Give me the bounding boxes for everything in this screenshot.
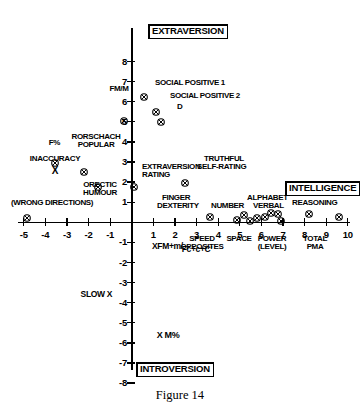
annotation-reasoning: REASONING xyxy=(292,199,337,207)
y-tick-label: -3 xyxy=(119,278,127,287)
annotation-xfm-numerator: XFM+m/ xyxy=(152,241,183,251)
y-tick-mark xyxy=(127,161,135,162)
x-tick-mark xyxy=(110,218,111,226)
y-tick-mark xyxy=(127,242,135,243)
annotation-pma: PMA xyxy=(298,243,332,251)
y-tick-label: -4 xyxy=(119,298,127,307)
y-tick-label: 6 xyxy=(122,97,127,106)
annotation-inaccuracy-x-marker: X xyxy=(22,167,88,175)
data-point-marker xyxy=(181,179,189,187)
annotation-level: (LEVEL) xyxy=(252,243,292,251)
annotation-xfm-ratio: XFM+m/Fc+c+C' xyxy=(144,234,213,259)
annotation-popular: POPULAR xyxy=(67,141,125,149)
annotation-social-positive-2: SOCIAL POSITIVE 2 xyxy=(170,92,240,100)
y-tick-mark xyxy=(127,81,135,82)
x-tick-mark xyxy=(88,218,89,226)
figure-caption: Figure 14 xyxy=(0,388,360,403)
data-point-marker xyxy=(305,210,313,218)
y-tick-mark xyxy=(127,101,135,102)
x-tick-label: -5 xyxy=(14,230,34,239)
y-tick-mark xyxy=(127,202,135,203)
y-tick-label: 1 xyxy=(122,197,127,206)
y-tick-mark xyxy=(127,362,135,363)
y-tick-mark xyxy=(127,302,135,303)
y-tick-label: -7 xyxy=(119,358,127,367)
y-tick-mark xyxy=(127,61,135,62)
y-tick-mark xyxy=(127,382,135,383)
data-point-marker xyxy=(157,118,165,126)
annotation-inaccuracy: INACCURACY xyxy=(22,155,88,163)
data-point-marker xyxy=(140,93,148,101)
y-tick-label: -2 xyxy=(119,258,127,267)
extraversion-pole-label: EXTRAVERSION xyxy=(152,26,224,36)
x-tick-label: -3 xyxy=(57,230,77,239)
data-point-marker xyxy=(23,214,31,222)
annotation-self-rating: SELF-RATING xyxy=(197,163,246,171)
y-axis-line xyxy=(131,28,133,370)
x-tick-mark xyxy=(174,218,175,226)
x-tick-mark xyxy=(304,218,305,226)
annotation-social-positive-1: SOCIAL POSITIVE 1 xyxy=(155,79,225,87)
x-axis-line xyxy=(18,222,350,224)
extraversion-pole-box: EXTRAVERSION xyxy=(148,24,228,39)
x-tick-label: 10 xyxy=(338,230,358,239)
annotation-humour: HUMOUR xyxy=(75,189,125,197)
x-tick-mark xyxy=(347,218,348,226)
y-tick-label: -6 xyxy=(119,338,127,347)
figure-14-scatter-plot: -8-7-6-5-4-3-2-112345678-5-4-3-2-1123456… xyxy=(0,0,360,416)
x-tick-mark xyxy=(153,218,154,226)
annotation-x-m-percent: X M% xyxy=(138,331,198,339)
y-tick-label: 3 xyxy=(122,157,127,166)
introversion-pole-label: INTROVERSION xyxy=(140,364,210,374)
x-tick-label: -2 xyxy=(79,230,99,239)
y-tick-mark xyxy=(127,342,135,343)
x-tick-label: -4 xyxy=(35,230,55,239)
x-tick-mark xyxy=(196,218,197,226)
y-tick-mark xyxy=(127,282,135,283)
annotation-dexterity: DEXTERITY xyxy=(157,202,199,210)
x-tick-mark xyxy=(66,218,67,226)
annotation-extraversion-rating-line2: RATING xyxy=(142,171,170,179)
annotation-wrong-directions: (WRONG DIRECTIONS) xyxy=(11,199,93,207)
y-tick-label: -8 xyxy=(119,378,127,387)
data-point-marker xyxy=(120,117,128,125)
annotation-fm-m: FM/M xyxy=(100,85,138,93)
data-point-marker xyxy=(206,213,214,221)
data-point-marker xyxy=(152,108,160,116)
x-tick-mark xyxy=(326,218,327,226)
x-tick-label: -1 xyxy=(100,230,120,239)
x-tick-mark xyxy=(218,218,219,226)
annotation-d: D xyxy=(177,103,182,111)
data-point-marker xyxy=(335,213,343,221)
annotation-xfm-denominator: Fc+c+C' xyxy=(182,244,212,254)
y-tick-mark xyxy=(127,322,135,323)
annotation-verbal: VERBAL xyxy=(253,202,284,210)
y-tick-mark xyxy=(127,141,135,142)
introversion-pole-box: INTROVERSION xyxy=(136,362,214,377)
y-tick-label: -5 xyxy=(119,318,127,327)
data-point-marker xyxy=(130,183,138,191)
y-tick-mark xyxy=(127,262,135,263)
data-point-marker xyxy=(277,217,285,225)
annotation-f-percent: F% xyxy=(36,139,60,147)
intelligence-pole-label: INTELLIGENCE xyxy=(289,183,356,193)
annotation-space: SPACE xyxy=(222,235,256,243)
annotation-slow-x: SLOW X xyxy=(48,290,112,298)
x-tick-mark xyxy=(45,218,46,226)
intelligence-pole-box: INTELLIGENCE xyxy=(285,181,360,196)
annotation-number: NUMBER xyxy=(211,202,244,210)
y-tick-label: 8 xyxy=(122,57,127,66)
